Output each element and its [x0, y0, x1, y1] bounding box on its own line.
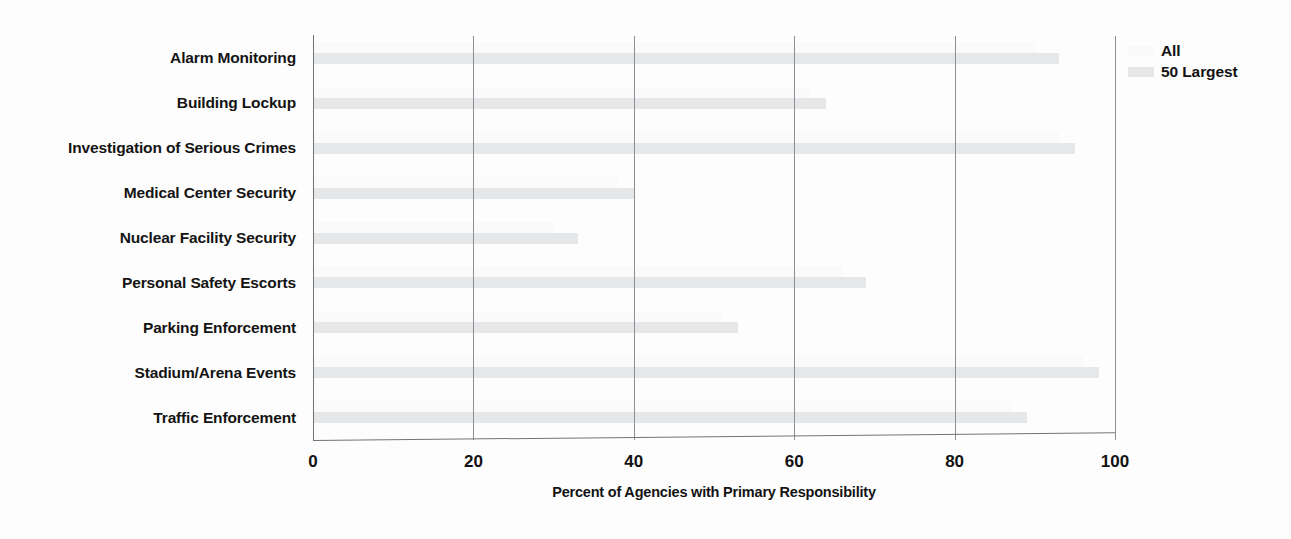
bars-container — [313, 36, 1115, 440]
bar-50-largest — [313, 233, 578, 244]
bar-group — [313, 126, 1115, 171]
chart-legend: All 50 Largest — [1128, 40, 1278, 82]
bar-group — [313, 305, 1115, 350]
gridline — [634, 36, 635, 440]
legend-swatch-icon — [1128, 67, 1154, 77]
x-tick-label: 60 — [785, 452, 804, 472]
y-axis-line — [313, 35, 314, 440]
bar-all — [313, 401, 1011, 412]
gridline — [473, 36, 474, 440]
x-axis-title: Percent of Agencies with Primary Respons… — [313, 484, 1115, 500]
x-axis-ticks: 020406080100 — [313, 452, 1115, 478]
category-label: Parking Enforcement — [0, 305, 305, 350]
bar-group — [313, 81, 1115, 126]
bar-all — [313, 42, 1035, 53]
legend-label: All — [1161, 42, 1181, 60]
bar-group — [313, 171, 1115, 216]
bar-all — [313, 87, 810, 98]
category-label: Investigation of Serious Crimes — [0, 126, 305, 171]
bar-group — [313, 36, 1115, 81]
bar-all — [313, 132, 1059, 143]
category-label: Nuclear Facility Security — [0, 216, 305, 261]
gridline — [794, 36, 795, 440]
x-tick-label: 40 — [624, 452, 643, 472]
bar-50-largest — [313, 367, 1099, 378]
bar-50-largest — [313, 277, 866, 288]
bar-50-largest — [313, 53, 1059, 64]
category-label: Stadium/Arena Events — [0, 350, 305, 395]
bar-all — [313, 311, 722, 322]
bar-50-largest — [313, 412, 1027, 423]
category-label: Medical Center Security — [0, 171, 305, 216]
legend-item-50-largest: 50 Largest — [1128, 61, 1278, 82]
category-axis-labels: Alarm Monitoring Building Lockup Investi… — [0, 36, 305, 440]
gridline — [955, 36, 956, 440]
plot-area — [313, 36, 1115, 440]
bar-50-largest — [313, 322, 738, 333]
bar-all — [313, 356, 1083, 367]
bar-group — [313, 216, 1115, 261]
bar-all — [313, 222, 554, 233]
x-tick-label: 80 — [945, 452, 964, 472]
gridline — [1115, 36, 1116, 440]
legend-swatch-icon — [1128, 46, 1154, 56]
legend-item-all: All — [1128, 40, 1278, 61]
x-tick-label: 20 — [464, 452, 483, 472]
bar-chart: Alarm Monitoring Building Lockup Investi… — [0, 0, 1291, 539]
bar-group — [313, 260, 1115, 305]
legend-label: 50 Largest — [1161, 63, 1238, 81]
bar-50-largest — [313, 143, 1075, 154]
x-tick-label: 0 — [308, 452, 317, 472]
bar-all — [313, 177, 618, 188]
bar-all — [313, 266, 842, 277]
category-label: Alarm Monitoring — [0, 36, 305, 81]
category-label: Personal Safety Escorts — [0, 260, 305, 305]
category-label: Traffic Enforcement — [0, 395, 305, 440]
category-label: Building Lockup — [0, 81, 305, 126]
bar-group — [313, 350, 1115, 395]
x-tick-label: 100 — [1101, 452, 1129, 472]
bar-50-largest — [313, 98, 826, 109]
